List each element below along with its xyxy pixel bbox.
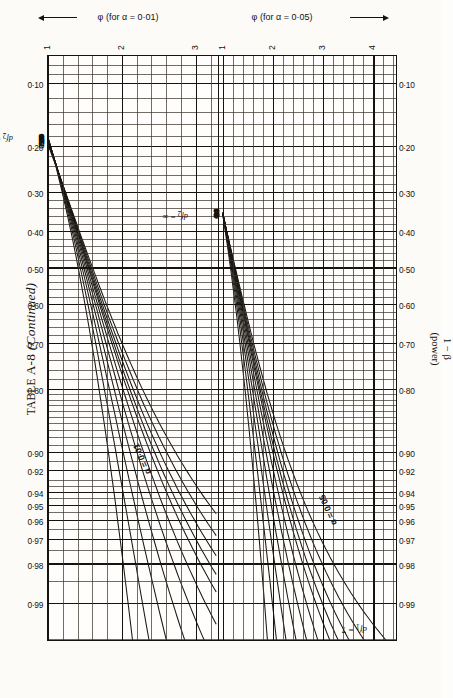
gridline-horizontal [353, 56, 354, 640]
x-axis-label-alpha01: φ (for α = 0·01) [97, 12, 158, 22]
gridline-horizontal [232, 56, 233, 640]
power-tick-0-80: 0·80 [27, 386, 43, 396]
power-curve-alpha05-df2-12 [222, 213, 394, 641]
power-tick-0-50: 0·50 [399, 265, 415, 275]
power-tick-0-98: 0·98 [399, 561, 415, 571]
power-tick-0-10: 0·10 [399, 80, 415, 90]
gridline-horizontal [222, 56, 223, 640]
power-tick-0-50: 0·50 [27, 265, 43, 275]
rotated-figure: TABLE A-8 (Continued) 0·990·990·980·980·… [21, 19, 421, 679]
power-curve-alpha05-df2-10 [222, 213, 394, 640]
gridline-horizontal [218, 56, 219, 640]
power-curve-alpha05-df2-inf [222, 215, 394, 640]
gridline-horizontal [272, 56, 273, 640]
power-tick-0-10: 0·10 [27, 80, 43, 90]
power-tick-0-60: 0·60 [27, 301, 43, 311]
power-curve-alpha05-df2-15 [222, 213, 394, 641]
power-curve-alpha05-df2-6 [222, 215, 394, 640]
gridline-horizontal [313, 56, 314, 640]
axis-arrow-alpha05 [349, 17, 383, 18]
gridline-horizontal [151, 56, 152, 640]
gridline-horizontal [323, 56, 324, 640]
gridline-horizontal [195, 56, 196, 640]
power-tick-0-98: 0·98 [27, 561, 43, 571]
power-tick-0-95: 0·95 [399, 502, 415, 512]
power-tick-0-30: 0·30 [399, 189, 415, 199]
power-tick-0-70: 0·70 [27, 340, 43, 350]
curve-label-df2-inf: ∞ [211, 214, 220, 219]
y-axis-label-main: 1 − β [441, 332, 453, 365]
curve-label-df2-inf: ∞ [37, 136, 46, 141]
gridline-horizontal [62, 56, 63, 640]
phi-alpha01-tick-1: 1 [42, 45, 52, 50]
power-curve-alpha05-df2-60 [222, 214, 394, 640]
power-tick-0-90: 0·90 [27, 449, 43, 459]
gridline-horizontal [333, 56, 334, 640]
power-tick-0-40: 0·40 [399, 228, 415, 238]
power-tick-0-60: 0·60 [399, 301, 415, 311]
power-curve-alpha05-df2-20 [222, 213, 394, 640]
power-curve-alpha05-df2-9 [222, 213, 394, 640]
power-tick-0-97: 0·97 [27, 536, 43, 546]
power-tick-0-94: 0·94 [399, 489, 415, 499]
power-tick-0-96: 0·96 [399, 517, 415, 527]
gridline-horizontal [210, 56, 211, 640]
power-tick-0-40: 0·40 [27, 228, 43, 238]
x-axis-label-alpha05: φ (for α = 0·05) [251, 12, 312, 22]
power-tick-0-95: 0·95 [27, 502, 43, 512]
power-tick-0-99: 0·99 [399, 600, 415, 610]
phi-alpha05-tick-1: 1 [216, 45, 226, 50]
power-tick-0-97: 0·97 [399, 536, 415, 546]
power-curve-alpha01-df2-9 [48, 142, 216, 575]
gridline-horizontal [121, 56, 122, 640]
phi-alpha05-tick-4: 4 [367, 45, 377, 50]
power-tick-0-80: 0·80 [399, 386, 415, 396]
power-tick-0-90: 0·90 [399, 449, 415, 459]
power-tick-0-92: 0·92 [399, 467, 415, 477]
gridline-horizontal [282, 56, 283, 640]
plot-area [47, 55, 397, 641]
gridline-horizontal [92, 56, 93, 640]
gridline-horizontal [383, 56, 384, 640]
gridline-horizontal [343, 56, 344, 640]
gridline-horizontal [136, 56, 137, 640]
power-tick-0-96: 0·96 [27, 517, 43, 527]
df2-label-alpha01: df2 = ∞ [0, 132, 13, 145]
gridline-horizontal [48, 56, 49, 640]
df1-label: df1 = 7 [341, 622, 366, 635]
title-prefix: TABLE [25, 378, 37, 415]
title-number: A-8 [23, 354, 38, 376]
y-axis-label-sub: (power) [429, 332, 441, 365]
gridline-horizontal [363, 56, 364, 640]
gridline-horizontal [303, 56, 304, 640]
power-tick-0-99: 0·99 [27, 600, 43, 610]
phi-alpha05-tick-3: 3 [317, 45, 327, 50]
axis-arrow-alpha01 [43, 17, 77, 18]
gridline-horizontal [77, 56, 78, 640]
df2-label: df2 = ∞ [162, 209, 188, 222]
gridline-horizontal [262, 56, 263, 640]
power-curve-alpha01-df2-8 [48, 142, 216, 555]
power-tick-0-94: 0·94 [27, 489, 43, 499]
power-curve-alpha05-df2-8 [222, 213, 394, 640]
power-tick-0-70: 0·70 [399, 340, 415, 350]
phi-alpha05-tick-2: 2 [266, 45, 276, 50]
gridline-horizontal [373, 56, 374, 640]
power-tick-0-30: 0·30 [27, 189, 43, 199]
phi-alpha01-tick-2: 2 [115, 45, 125, 50]
power-curve-alpha05-df2-7 [222, 214, 394, 640]
gridline-horizontal [252, 56, 253, 640]
gridline-horizontal [166, 56, 167, 640]
power-tick-0-92: 0·92 [27, 467, 43, 477]
phi-alpha01-tick-3: 3 [189, 45, 199, 50]
gridline-horizontal [181, 56, 182, 640]
power-tick-0-20: 0·20 [399, 143, 415, 153]
gridline-horizontal [393, 56, 394, 640]
y-axis-label: 1 − β(power) [429, 332, 453, 365]
power-curve-alpha05-df2-30 [222, 213, 394, 640]
gridline-horizontal [107, 56, 108, 640]
gridline-horizontal [293, 56, 294, 640]
gridline-horizontal [242, 56, 243, 640]
